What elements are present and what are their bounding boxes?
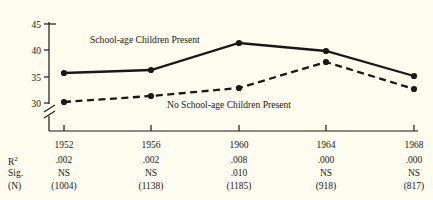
significance-1968: NS — [384, 168, 433, 178]
x-axis-tick-labels-row: 1952 1956 1960 1964 1968 — [0, 140, 433, 153]
series-line-school-age-children — [64, 43, 414, 76]
significance-1960: .010 — [209, 168, 269, 178]
x-tick-label-1960: 1960 — [209, 140, 269, 150]
r-squared-1956: .002 — [121, 155, 181, 165]
n-1968: (817) — [384, 181, 433, 191]
r-squared-1952: .002 — [34, 155, 94, 165]
n-1952: (1004) — [34, 181, 94, 191]
x-tick-label-1956: 1956 — [121, 140, 181, 150]
significance-1956: NS — [121, 168, 181, 178]
r-squared-1964: .000 — [296, 155, 356, 165]
stats-row-r-squared: R2 .002 .002 .008 .000 .000 — [0, 155, 433, 168]
r-squared-1968: .000 — [384, 155, 433, 165]
stats-row-significance: Sig. NS NS .010 NS NS — [0, 168, 433, 181]
x-tick-label-1968: 1968 — [384, 140, 433, 150]
r-squared-1960: .008 — [209, 155, 269, 165]
series-label-school-age-children: School-age Children Present — [90, 34, 200, 45]
n-1960: (1185) — [209, 181, 269, 191]
significance-1952: NS — [34, 168, 94, 178]
n-1956: (1138) — [121, 181, 181, 191]
x-tick-label-1952: 1952 — [34, 140, 94, 150]
stats-row-n: (N) (1004) (1138) (1185) (918) (817) — [0, 181, 433, 194]
series-label-no-school-age-children: No School-age Children Present — [167, 99, 291, 110]
stats-table: 1952 1956 1960 1964 1968 R2 .002 .002 .0… — [0, 138, 433, 200]
y-axis-ticks — [44, 24, 56, 103]
series-line-no-school-age-children — [64, 62, 414, 102]
chart-figure: Percent Regular Attendance 45 40 35 30 — [0, 0, 433, 200]
significance-1964: NS — [296, 168, 356, 178]
y-tick-label-45: 45 — [32, 20, 42, 30]
x-tick-label-1964: 1964 — [296, 140, 356, 150]
y-tick-label-35: 35 — [32, 73, 42, 83]
x-axis-ticks — [64, 125, 414, 131]
n-1964: (918) — [296, 181, 356, 191]
y-tick-label-40: 40 — [32, 46, 42, 56]
y-tick-label-30: 30 — [32, 99, 42, 109]
